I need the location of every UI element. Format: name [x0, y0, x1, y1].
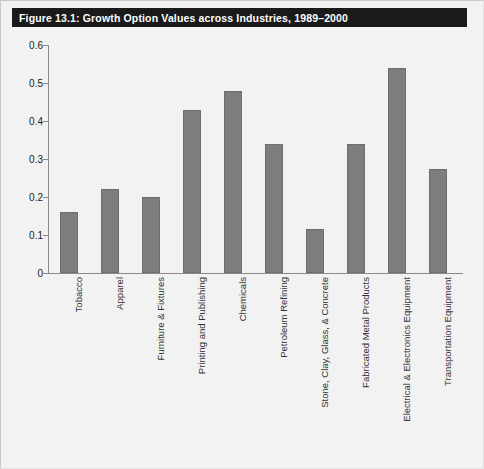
category-label: Transportation Equipment [442, 277, 453, 386]
bar-slot [253, 45, 294, 273]
y-axis-tick-label: 0.1 [13, 230, 43, 241]
category-label: Tobacco [73, 277, 84, 312]
bar-slot [376, 45, 417, 273]
category-label: Printing and Publishing [196, 277, 207, 374]
figure-container: Figure 13.1: Growth Option Values across… [0, 0, 484, 469]
bar-slot [130, 45, 171, 273]
y-axis-tick-label: 0 [13, 268, 43, 279]
chart-plot-area: 00.10.20.30.40.50.6 TobaccoApparelFurnit… [1, 1, 484, 469]
bar[interactable] [306, 229, 324, 273]
y-axis-tick-label: 0.4 [13, 116, 43, 127]
bar[interactable] [388, 68, 406, 273]
bar-slot [212, 45, 253, 273]
bar-slot [294, 45, 335, 273]
bar-slot [335, 45, 376, 273]
y-axis-tick-mark [43, 273, 48, 274]
category-label-slot: Printing and Publishing [171, 277, 212, 457]
bar-slot [48, 45, 89, 273]
bar-series [48, 45, 463, 273]
category-label: Stone, Clay, Glass, & Concrete [319, 277, 330, 408]
category-label-slot: Stone, Clay, Glass, & Concrete [294, 277, 335, 457]
category-label-slot: Furniture & Fixtures [130, 277, 171, 457]
category-label: Chemicals [237, 277, 248, 321]
bar[interactable] [224, 91, 242, 273]
category-label: Fabricated Metal Products [360, 277, 371, 388]
category-label-slot: Petroleum Refining [253, 277, 294, 457]
category-label: Electrical & Electronics Equipment [401, 277, 412, 422]
bar[interactable] [183, 110, 201, 273]
bar[interactable] [429, 169, 447, 274]
y-axis-tick-label: 0.6 [13, 40, 43, 51]
bar[interactable] [347, 144, 365, 273]
bar-slot [417, 45, 458, 273]
bar[interactable] [60, 212, 78, 273]
x-axis-category-labels: TobaccoApparelFurniture & FixturesPrinti… [48, 277, 463, 457]
category-label-slot: Apparel [89, 277, 130, 457]
bar[interactable] [101, 189, 119, 273]
category-label-slot: Electrical & Electronics Equipment [376, 277, 417, 457]
category-label-slot: Transportation Equipment [417, 277, 458, 457]
bar-slot [89, 45, 130, 273]
y-axis-tick-label: 0.2 [13, 192, 43, 203]
x-axis-line [48, 273, 463, 274]
bar[interactable] [265, 144, 283, 273]
category-label-slot: Tobacco [48, 277, 89, 457]
category-label-slot: Fabricated Metal Products [335, 277, 376, 457]
y-axis-tick-label: 0.3 [13, 154, 43, 165]
category-label: Petroleum Refining [278, 277, 289, 358]
y-axis-tick-label: 0.5 [13, 78, 43, 89]
bar[interactable] [142, 197, 160, 273]
bar-slot [171, 45, 212, 273]
category-label-slot: Chemicals [212, 277, 253, 457]
category-label: Furniture & Fixtures [155, 277, 166, 360]
category-label: Apparel [114, 277, 125, 310]
